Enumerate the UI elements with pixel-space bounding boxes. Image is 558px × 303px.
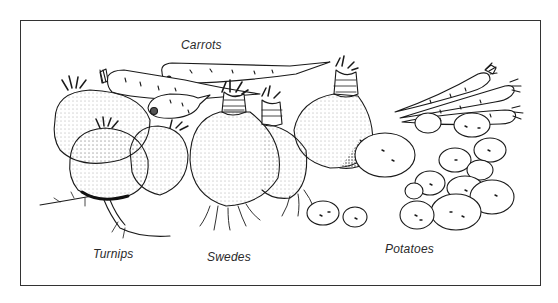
vegetable-illustration [0, 0, 558, 303]
label-carrots: Carrots [181, 38, 222, 52]
carrot-bunch-right [395, 63, 523, 125]
label-turnips: Turnips [93, 247, 134, 261]
label-swedes: Swedes [207, 250, 251, 264]
carrot-stubby [148, 94, 210, 118]
label-potatoes: Potatoes [385, 242, 434, 256]
